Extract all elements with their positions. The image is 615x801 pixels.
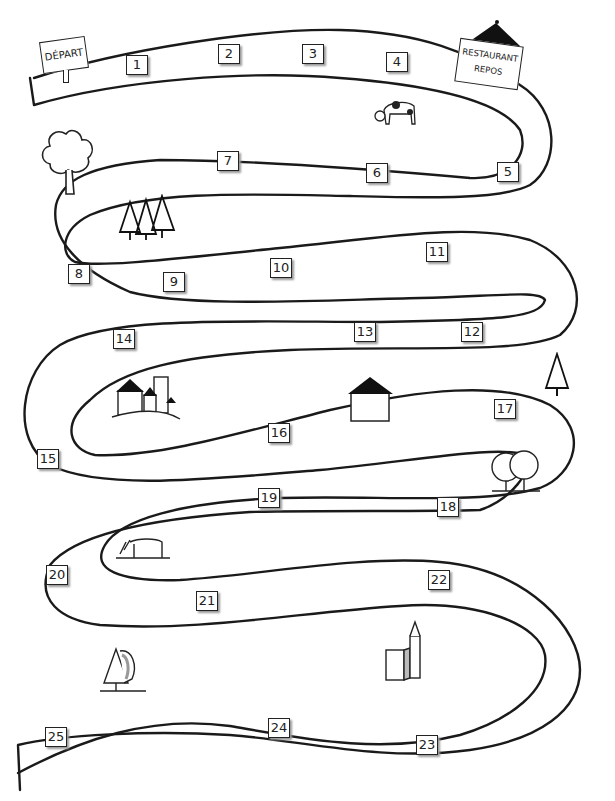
castle-icon	[108, 373, 184, 423]
board-square-18[interactable]: 18	[437, 497, 459, 517]
board-square-12[interactable]: 12	[461, 322, 483, 342]
church-icon	[382, 620, 432, 684]
tree-icon	[96, 645, 150, 695]
start-sign-post	[63, 70, 69, 83]
board-square-9[interactable]: 9	[163, 272, 185, 292]
board-square-24[interactable]: 24	[268, 718, 290, 738]
restaurant-sign: RESTAURANT REPOS	[454, 38, 524, 90]
board-square-17[interactable]: 17	[494, 399, 516, 419]
deciduous-tree-icon	[36, 124, 96, 199]
start-label: DÉPART	[44, 46, 84, 62]
winding-road	[0, 0, 615, 801]
board-square-23[interactable]: 23	[416, 735, 438, 755]
board-square-6[interactable]: 6	[366, 163, 388, 183]
board-square-15[interactable]: 15	[37, 449, 59, 469]
board-square-20[interactable]: 20	[46, 565, 68, 585]
pine-forest-icon	[116, 194, 178, 244]
board-square-13[interactable]: 13	[354, 322, 376, 342]
board-square-22[interactable]: 22	[428, 570, 450, 590]
cow-icon	[372, 96, 422, 130]
board-square-10[interactable]: 10	[270, 258, 292, 278]
board-square-16[interactable]: 16	[268, 423, 290, 443]
board-square-8[interactable]: 8	[68, 264, 90, 284]
board-square-3[interactable]: 3	[302, 44, 324, 64]
two-trees-icon	[486, 445, 544, 495]
game-board: DÉPART RESTAURANT REPOS	[0, 0, 615, 801]
board-square-19[interactable]: 19	[258, 488, 280, 508]
board-square-5[interactable]: 5	[497, 162, 519, 182]
horse-icon	[112, 532, 174, 564]
board-square-1[interactable]: 1	[126, 55, 148, 75]
board-square-2[interactable]: 2	[218, 44, 240, 64]
board-square-25[interactable]: 25	[45, 727, 67, 747]
board-square-14[interactable]: 14	[113, 329, 135, 349]
house-icon	[346, 375, 396, 425]
board-square-7[interactable]: 7	[217, 151, 239, 171]
board-square-11[interactable]: 11	[426, 242, 448, 262]
board-square-21[interactable]: 21	[196, 591, 218, 611]
start-sign: DÉPART	[39, 36, 89, 74]
board-square-4[interactable]: 4	[386, 52, 408, 72]
pine-tree-icon	[540, 352, 574, 398]
